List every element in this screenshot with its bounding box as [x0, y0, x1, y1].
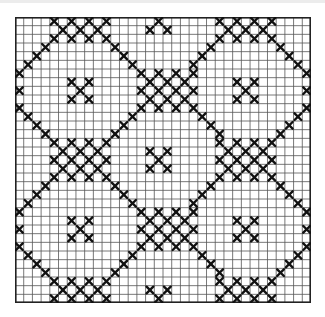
cross-stitch — [60, 287, 67, 294]
cross-stitch — [129, 61, 136, 68]
cross-stitch — [86, 295, 93, 302]
cross-stitch — [155, 87, 162, 94]
cross-stitch — [260, 165, 267, 172]
cross-stitch — [234, 35, 241, 42]
cross-stitch — [251, 235, 258, 242]
cross-stitch — [60, 27, 67, 34]
cross-stitch — [260, 27, 267, 34]
cross-stitch — [268, 295, 275, 302]
cross-stitch — [251, 79, 258, 86]
cross-stitch — [190, 70, 197, 77]
cross-stitch — [268, 139, 275, 146]
cross-stitch — [147, 27, 154, 34]
cross-stitch — [103, 295, 110, 302]
cross-stitch — [155, 209, 162, 216]
cross-stitch — [68, 157, 75, 164]
cross-stitch — [120, 53, 127, 60]
cross-stitch — [86, 174, 93, 181]
cross-stitch — [129, 200, 136, 207]
cross-stitch — [181, 96, 188, 103]
cross-stitch — [216, 18, 223, 25]
cross-stitch — [77, 148, 84, 155]
cross-stitch — [77, 27, 84, 34]
cross-stitch — [86, 35, 93, 42]
cross-stitch — [234, 157, 241, 164]
cross-stitch — [225, 287, 232, 294]
cross-stitch — [199, 191, 206, 198]
cross-stitch — [216, 278, 223, 285]
cross-stitch — [225, 148, 232, 155]
cross-stitch — [33, 261, 40, 268]
cross-stitch — [103, 18, 110, 25]
cross-stitch — [42, 269, 49, 276]
cross-stitch — [303, 226, 310, 233]
cross-stitch — [216, 295, 223, 302]
cross-stitch — [68, 96, 75, 103]
cross-stitch — [216, 139, 223, 146]
cross-stitch — [268, 278, 275, 285]
cross-stitch — [68, 278, 75, 285]
cross-stitch — [147, 79, 154, 86]
cross-stitch — [68, 79, 75, 86]
cross-stitch — [16, 209, 23, 216]
cross-stitch — [251, 278, 258, 285]
cross-stitch — [94, 165, 101, 172]
cross-stitch — [234, 18, 241, 25]
cross-stitch — [164, 287, 171, 294]
cross-stitch — [173, 243, 180, 250]
cross-stitch — [94, 148, 101, 155]
cross-stitch — [251, 18, 258, 25]
cross-stitch — [16, 243, 23, 250]
cross-stitch — [242, 27, 249, 34]
cross-stitch — [242, 87, 249, 94]
cross-stitch — [68, 217, 75, 224]
cross-stitch — [173, 87, 180, 94]
cross-stitch — [42, 183, 49, 190]
cross-stitch — [129, 113, 136, 120]
cross-stitch — [208, 183, 215, 190]
cross-stitch — [16, 226, 23, 233]
cross-stitch — [33, 191, 40, 198]
cross-stitch — [199, 252, 206, 259]
cross-stitch — [181, 79, 188, 86]
cross-stitch — [86, 79, 93, 86]
cross-stitch — [164, 27, 171, 34]
cross-stitch — [138, 243, 145, 250]
cross-stitch — [199, 113, 206, 120]
cross-stitch — [164, 217, 171, 224]
cross-stitch — [164, 96, 171, 103]
cross-stitch — [68, 35, 75, 42]
cross-stitch — [16, 70, 23, 77]
cross-stitch — [268, 174, 275, 181]
cross-stitch — [251, 157, 258, 164]
cross-stitch — [208, 44, 215, 51]
cross-stitch — [77, 87, 84, 94]
cross-stitch — [173, 209, 180, 216]
cross-stitch — [155, 295, 162, 302]
cross-stitch — [147, 217, 154, 224]
cross-stitch — [42, 131, 49, 138]
cross-stitch — [155, 226, 162, 233]
cross-stitch — [155, 18, 162, 25]
cross-stitch — [51, 157, 58, 164]
cross-stitch — [277, 44, 284, 51]
cross-stitch — [190, 209, 197, 216]
cross-stitch — [155, 157, 162, 164]
cross-stitch — [251, 96, 258, 103]
cross-stitch — [234, 235, 241, 242]
cross-stitch — [295, 61, 302, 68]
cross-stitch — [68, 18, 75, 25]
cross-stitch — [164, 79, 171, 86]
cross-stitch — [251, 35, 258, 42]
cross-stitch — [268, 157, 275, 164]
cross-stitch — [164, 235, 171, 242]
cross-stitch — [295, 252, 302, 259]
cross-stitch — [181, 235, 188, 242]
cross-stitch — [190, 87, 197, 94]
cross-stitch — [234, 295, 241, 302]
cross-stitch — [129, 252, 136, 259]
cross-stitch — [33, 53, 40, 60]
cross-stitch — [303, 105, 310, 112]
cross-stitch — [295, 113, 302, 120]
cross-stitch — [242, 148, 249, 155]
